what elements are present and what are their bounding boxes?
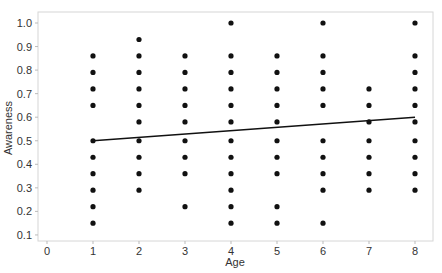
x-tick-label: 7: [366, 245, 372, 257]
data-point: [182, 70, 187, 75]
data-point: [90, 103, 95, 108]
data-point: [90, 171, 95, 176]
data-point: [320, 221, 325, 226]
data-point: [228, 119, 233, 124]
data-point: [90, 221, 95, 226]
data-point: [136, 171, 141, 176]
x-tick-label: 2: [136, 245, 142, 257]
x-tick-label: 1: [90, 245, 96, 257]
data-point: [136, 119, 141, 124]
data-point: [90, 204, 95, 209]
data-point: [228, 20, 233, 25]
data-point: [366, 188, 371, 193]
data-point: [412, 138, 417, 143]
data-point: [366, 171, 371, 176]
data-point: [412, 70, 417, 75]
data-point: [320, 20, 325, 25]
data-point: [136, 103, 141, 108]
data-point: [274, 221, 279, 226]
data-point: [412, 53, 417, 58]
data-point: [228, 53, 233, 58]
data-point: [274, 119, 279, 124]
data-point: [320, 171, 325, 176]
data-point: [182, 171, 187, 176]
y-tick-label: 0.1: [17, 229, 32, 241]
y-tick-label: 0.6: [17, 111, 32, 123]
data-point: [274, 204, 279, 209]
data-point: [412, 119, 417, 124]
plot-area: [38, 12, 433, 241]
data-point: [228, 103, 233, 108]
data-point: [412, 155, 417, 160]
data-point: [320, 70, 325, 75]
data-point: [274, 70, 279, 75]
data-point: [412, 188, 417, 193]
data-point: [320, 155, 325, 160]
data-point: [228, 188, 233, 193]
data-point: [136, 86, 141, 91]
data-point: [136, 70, 141, 75]
data-point: [228, 221, 233, 226]
y-tick-label: 0.5: [17, 135, 32, 147]
data-point: [412, 86, 417, 91]
x-axis-label: Age: [225, 256, 245, 268]
data-point: [320, 53, 325, 58]
data-point: [228, 86, 233, 91]
data-point: [136, 155, 141, 160]
data-point: [274, 53, 279, 58]
data-point: [90, 155, 95, 160]
data-point: [182, 103, 187, 108]
data-point: [182, 53, 187, 58]
data-point: [90, 53, 95, 58]
y-tick-label: 1.0: [17, 17, 32, 29]
data-point: [320, 138, 325, 143]
data-point: [274, 138, 279, 143]
data-point: [320, 103, 325, 108]
y-tick-label: 0.8: [17, 64, 32, 76]
x-tick-label: 8: [412, 245, 418, 257]
x-tick-label: 5: [274, 245, 280, 257]
data-point: [136, 37, 141, 42]
y-axis: 0.10.20.30.40.50.60.70.80.91.0: [17, 17, 38, 241]
data-point: [228, 155, 233, 160]
data-point: [182, 86, 187, 91]
data-point: [412, 171, 417, 176]
data-point: [136, 188, 141, 193]
data-point: [366, 138, 371, 143]
data-point: [136, 138, 141, 143]
data-point: [228, 171, 233, 176]
data-point: [182, 138, 187, 143]
y-tick-label: 0.3: [17, 182, 32, 194]
data-point: [366, 103, 371, 108]
data-point: [228, 70, 233, 75]
y-tick-label: 0.7: [17, 88, 32, 100]
data-point: [274, 86, 279, 91]
y-tick-label: 0.2: [17, 205, 32, 217]
data-point: [366, 155, 371, 160]
data-point: [274, 171, 279, 176]
data-point: [228, 138, 233, 143]
scatter-chart: 0.10.20.30.40.50.60.70.80.91.0 012345678…: [0, 0, 442, 273]
data-point: [366, 86, 371, 91]
data-point: [90, 188, 95, 193]
y-tick-label: 0.9: [17, 41, 32, 53]
y-axis-label: Awareness: [2, 100, 14, 155]
data-point: [136, 53, 141, 58]
data-point: [228, 204, 233, 209]
data-point: [320, 86, 325, 91]
data-point: [320, 188, 325, 193]
data-point: [90, 86, 95, 91]
data-point: [182, 119, 187, 124]
data-point: [90, 70, 95, 75]
x-tick-label: 3: [182, 245, 188, 257]
data-point: [182, 204, 187, 209]
data-point: [182, 155, 187, 160]
x-tick-label: 0: [44, 245, 50, 257]
x-axis: 012345678: [44, 241, 418, 257]
data-point: [274, 103, 279, 108]
data-point: [412, 103, 417, 108]
data-point: [412, 20, 417, 25]
y-tick-label: 0.4: [17, 158, 32, 170]
data-point: [274, 155, 279, 160]
x-tick-label: 6: [320, 245, 326, 257]
